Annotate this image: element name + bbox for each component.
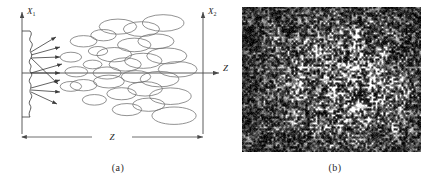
speckle-cell: [70, 36, 97, 47]
ray-3: [31, 57, 60, 58]
x2-axis-label: X2: [207, 6, 217, 17]
schematic-svg: X1 X2 Z: [0, 0, 236, 160]
ray-4: [31, 64, 62, 73]
ray-7: [31, 80, 60, 88]
speckle-cell: [117, 38, 150, 52]
speckle-cell: [152, 107, 196, 124]
rough-surface-group: [22, 31, 32, 117]
x1-axis-group: X1: [22, 6, 36, 134]
x1-axis-label: X1: [26, 6, 36, 17]
ray-2: [31, 47, 60, 55]
speckle-cell: [138, 34, 174, 49]
panel-b-photograph: (b): [236, 0, 434, 188]
speckle-cell: [150, 88, 192, 105]
z-axis-label: Z: [223, 63, 229, 73]
figure-root: X1 X2 Z: [0, 0, 434, 188]
speckle-cells-group: [60, 15, 197, 125]
speckle-cell: [142, 15, 184, 32]
speckle-cell: [128, 82, 163, 96]
speckle-cell: [158, 62, 197, 78]
ray-8: [31, 90, 60, 92]
speckle-cell: [93, 75, 124, 88]
speckle-cell: [109, 58, 141, 71]
speckle-cell: [121, 71, 150, 83]
speckle-cell: [60, 52, 81, 62]
speckle-pattern-canvas: [242, 7, 421, 152]
panel-a-schematic: X1 X2 Z: [0, 0, 236, 188]
caption-panel-b: (b): [236, 162, 434, 173]
speckle-cell: [82, 95, 106, 106]
speckle-cell: [83, 60, 102, 69]
speckle-cell: [99, 19, 136, 34]
ray-9: [31, 92, 57, 104]
ray-1: [31, 37, 56, 52]
scattered-rays-group: [31, 37, 62, 104]
rough-surface-profile: [29, 31, 32, 117]
caption-panel-a: (a): [0, 162, 236, 173]
speckle-cell: [65, 67, 88, 77]
x2-axis-group: X2: [203, 6, 217, 134]
speckle-cell: [88, 47, 107, 56]
z-distance-label: Z: [109, 132, 115, 142]
ray-6: [31, 58, 58, 84]
z-axis-group: Z: [22, 63, 229, 73]
speckle-cell: [125, 53, 163, 68]
z-dimension-group: Z: [22, 132, 203, 142]
speckle-cell: [70, 80, 97, 91]
speckle-pattern-photo: [242, 7, 421, 152]
